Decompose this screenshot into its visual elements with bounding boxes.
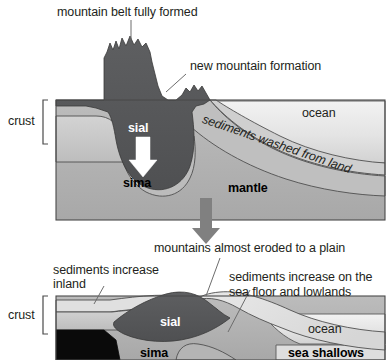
label-sima-bottom: sima	[140, 346, 168, 360]
label-mountain-belt-fully-formed: mountain belt fully formed	[57, 5, 198, 20]
leader-new-mountain	[166, 74, 186, 92]
label-sediments-increase-inland-line1: sediments increase	[53, 263, 159, 278]
label-sediments-increase-inland-line2: inland	[53, 277, 86, 292]
label-crust-top: crust	[8, 114, 35, 129]
label-mountains-eroded-plain: mountains almost eroded to a plain	[154, 241, 345, 256]
label-sea-shallows: sea shallows	[288, 346, 364, 360]
diagram-canvas	[0, 0, 386, 360]
label-sial-top: sial	[128, 121, 148, 136]
label-crust-bottom: crust	[8, 308, 35, 323]
geology-cross-section-figure: mountain belt fully formed new mountain …	[0, 0, 386, 360]
label-ocean-top: ocean	[302, 106, 336, 121]
crust-bracket-bottom	[43, 296, 48, 334]
label-sima-top: sima	[123, 176, 151, 191]
label-sial-bottom: sial	[160, 315, 180, 330]
label-new-mountain-formation: new mountain formation	[190, 59, 321, 74]
crust-bracket-top	[43, 100, 48, 144]
label-ocean-bottom: ocean	[308, 322, 342, 337]
label-sediments-increase-sea-line2: sea floor and lowlands	[229, 285, 351, 300]
leader-eroded-plain	[206, 258, 220, 296]
label-sediments-increase-sea-line1: sediments increase on the	[229, 270, 372, 285]
label-mantle-top: mantle	[228, 181, 268, 196]
